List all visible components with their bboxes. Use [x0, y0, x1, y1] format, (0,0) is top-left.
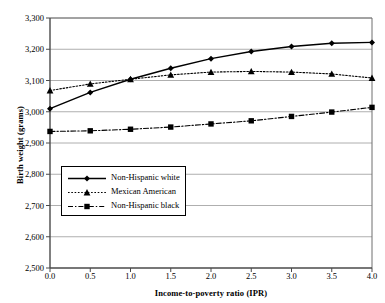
legend-item: Non-Hispanic white [66, 170, 181, 184]
plot-area [0, 0, 385, 303]
data-point-marker [369, 105, 374, 110]
legend-key-square-icon [66, 199, 108, 212]
data-point-marker [369, 39, 375, 45]
data-point-marker [84, 175, 90, 181]
chart-figure: Birth weight (grams) Income-to-poverty r… [0, 0, 385, 303]
series-line [50, 107, 372, 131]
data-point-marker [208, 56, 214, 62]
data-point-marker [88, 128, 93, 133]
chart-legend: Non-Hispanic whiteMexican AmericanNon-Hi… [61, 166, 186, 216]
data-point-marker [128, 127, 133, 132]
data-point-marker [289, 114, 294, 119]
series-3 [47, 105, 374, 134]
data-point-marker [289, 43, 295, 49]
legend-key-triangle-icon [66, 185, 108, 198]
data-point-marker [208, 121, 213, 126]
data-point-marker [47, 106, 53, 112]
data-point-marker [47, 87, 54, 93]
series-line [50, 42, 372, 108]
legend-label: Mexican American [108, 187, 176, 196]
legend-item: Non-Hispanic black [66, 198, 181, 212]
data-point-marker [168, 65, 174, 71]
data-point-marker [329, 109, 334, 114]
data-point-marker [87, 89, 93, 95]
series-1 [47, 39, 375, 111]
data-point-marker [168, 124, 173, 129]
data-point-marker [329, 40, 335, 46]
data-point-marker [47, 129, 52, 134]
legend-item: Mexican American [66, 184, 181, 198]
legend-label: Non-Hispanic white [108, 173, 180, 182]
legend-key-diamond-icon [66, 171, 108, 184]
legend-label: Non-Hispanic black [108, 201, 179, 210]
data-point-marker [84, 203, 89, 208]
data-point-marker [249, 118, 254, 123]
